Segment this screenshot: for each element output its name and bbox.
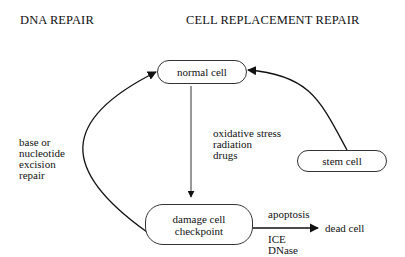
node-normal-cell-label: normal cell xyxy=(177,66,227,78)
node-stem-cell-label: stem cell xyxy=(322,155,361,167)
node-damage-cell-checkpoint: damage cell checkpoint xyxy=(145,204,253,245)
label-damage-causes: oxidative stress radiation drugs xyxy=(213,128,281,161)
label-line: DNase xyxy=(268,245,298,256)
edge-damage-to-normal xyxy=(83,72,156,232)
label-line: repair xyxy=(19,170,65,181)
node-normal-cell: normal cell xyxy=(157,60,247,84)
label-apoptosis-enzymes: ICE DNase xyxy=(268,234,298,256)
heading-cell-replacement-repair: CELL REPLACEMENT REPAIR xyxy=(186,13,359,28)
node-damage-cell-line1: damage cell xyxy=(173,213,226,225)
node-damage-cell-line2: checkpoint xyxy=(173,225,226,237)
label-line: drugs xyxy=(213,150,281,161)
label-apoptosis: apoptosis xyxy=(268,209,310,220)
node-dead-cell: dead cell xyxy=(325,223,364,234)
label-excision-repair: base or nucleotide excision repair xyxy=(19,137,65,181)
node-stem-cell: stem cell xyxy=(297,150,387,172)
heading-dna-repair: DNA REPAIR xyxy=(20,13,94,28)
